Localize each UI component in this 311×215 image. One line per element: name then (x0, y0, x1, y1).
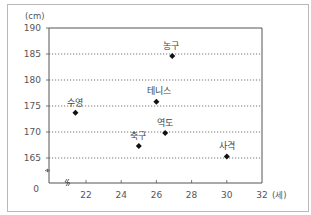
data-point-label: 테니스 (147, 86, 171, 96)
diamond-marker-icon (162, 130, 168, 136)
data-point-label: 수영 (67, 98, 83, 108)
y-tick-label: 170 (24, 127, 41, 137)
data-point-label: 축구 (130, 131, 146, 141)
diamond-marker-icon (72, 110, 78, 116)
diamond-marker-icon (136, 143, 142, 149)
y-tick-label: 190 (24, 23, 41, 33)
x-axis-unit-label: (세) (272, 190, 287, 200)
x-tick-label: 28 (186, 190, 198, 200)
data-point-label: 역도 (157, 118, 173, 128)
data-point: 농구 (163, 41, 179, 59)
x-tick-label: 22 (80, 190, 91, 200)
tick-labels: 165170175180185190222426283032(세) (24, 23, 287, 200)
y-origin-label: 0 (33, 184, 39, 194)
data-points: 수영테니스농구축구역도사격 (67, 41, 234, 159)
y-tick-label: 175 (24, 101, 41, 111)
y-tick-label: 180 (24, 75, 41, 85)
x-tick-label: 32 (256, 190, 267, 200)
data-point-label: 농구 (163, 41, 179, 51)
diamond-marker-icon (153, 99, 159, 105)
data-point: 역도 (157, 118, 173, 136)
y-tick-label: 185 (24, 49, 41, 59)
x-tick-label: 26 (151, 190, 163, 200)
data-point: 테니스 (147, 86, 171, 105)
y-axis-unit-label: (cm) (25, 11, 45, 21)
x-tick-label: 30 (221, 190, 233, 200)
data-point-label: 사격 (219, 140, 235, 151)
data-point: 축구 (130, 131, 146, 149)
scatter-chart: 165170175180185190222426283032(세) 수영테니스농… (0, 0, 311, 215)
y-tick-label: 165 (24, 153, 41, 163)
x-tick-label: 24 (115, 190, 127, 200)
x-axis-break-icon (65, 179, 70, 186)
diamond-marker-icon (224, 153, 230, 159)
data-point: 사격 (219, 140, 235, 159)
data-point: 수영 (67, 98, 83, 116)
